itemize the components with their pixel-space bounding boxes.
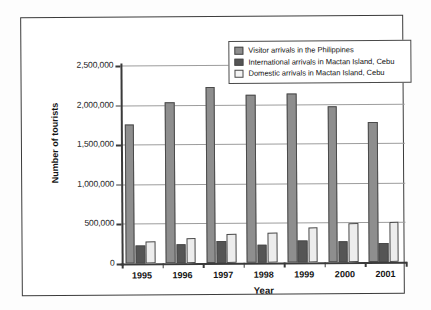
legend-swatch-icon-international [234,58,243,66]
x-axis-tick [324,262,326,267]
chart-frame-border: Number of tourists 0500,0001,000,0001,50… [20,15,405,296]
y-axis-tick-label: 500,000 [84,218,114,228]
x-axis-tick-label: 1997 [203,270,243,280]
bar [125,124,135,263]
legend-label-domestic: Domestic arrivals in Mactan Island, Cebu [248,68,384,78]
x-axis-tick [365,262,367,267]
x-axis-tick-label: 1995 [122,270,162,280]
x-axis-tick [284,263,286,268]
y-axis-title: Number of tourists [50,83,61,203]
x-axis-tick-label: 2001 [365,269,405,279]
bar [338,241,348,262]
bar [165,102,175,263]
bar [368,122,378,262]
bars-group [120,64,405,264]
legend-label-international: International arrivals in Mactan Island,… [248,57,394,67]
x-axis-tick-label: 1998 [244,270,284,280]
bar [217,241,227,263]
x-axis-tick [203,263,205,268]
bar [186,238,196,263]
x-axis-tick-label: 1996 [163,270,203,280]
y-axis-tick-label: 2,500,000 [76,60,113,70]
bar [327,106,337,262]
bar [227,234,237,263]
chart-page: Number of tourists 0500,0001,000,0001,50… [0,0,431,310]
x-axis-tick-label: 1999 [284,269,324,279]
legend-swatch-icon-domestic [234,70,243,78]
bar [136,246,146,264]
bar [308,228,318,263]
y-axis-tick-label: 2,000,000 [77,99,114,109]
chart-legend: Visitor arrivals in the Philippines Inte… [228,40,411,84]
x-axis-title: Year [122,284,406,297]
x-axis-tick-label: 2000 [325,269,365,279]
bar [257,244,267,262]
bar [205,87,216,263]
y-axis-tick-label: 0 [110,258,115,268]
x-axis-tick [243,263,245,268]
legend-label-visitor: Visitor arrivals in the Philippines [248,45,353,55]
x-axis-group: 1995199619971998199920002001 [21,16,402,18]
bar [146,242,156,264]
x-axis-tick [122,264,124,269]
bar [379,243,389,262]
bar [287,93,298,263]
y-axis-tick-label: 1,000,000 [77,178,114,188]
bar [389,221,399,261]
legend-swatch-icon-visitor [234,47,243,55]
x-axis-tick [162,263,164,268]
bar [268,233,278,263]
y-axis-tick-label: 1,500,000 [77,139,114,149]
bar [246,95,257,263]
x-axis-tick [406,262,408,267]
chart-canvas: Number of tourists 0500,0001,000,0001,50… [21,16,404,295]
legend-item-domestic: Domestic arrivals in Mactan Island, Cebu [234,67,406,80]
bar [349,223,359,262]
gridlines-group: 0500,0001,000,0001,500,0002,000,0002,500… [21,16,402,18]
bar [176,244,186,263]
bar [298,240,308,262]
